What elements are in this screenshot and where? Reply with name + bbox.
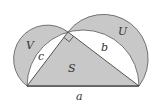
lune-diagram: V c U b S a bbox=[0, 0, 158, 106]
label-a: a bbox=[76, 90, 83, 103]
label-c: c bbox=[38, 50, 44, 63]
label-v: V bbox=[26, 39, 35, 52]
label-s: S bbox=[68, 62, 76, 75]
label-b: b bbox=[101, 41, 108, 54]
label-u: U bbox=[118, 25, 128, 38]
